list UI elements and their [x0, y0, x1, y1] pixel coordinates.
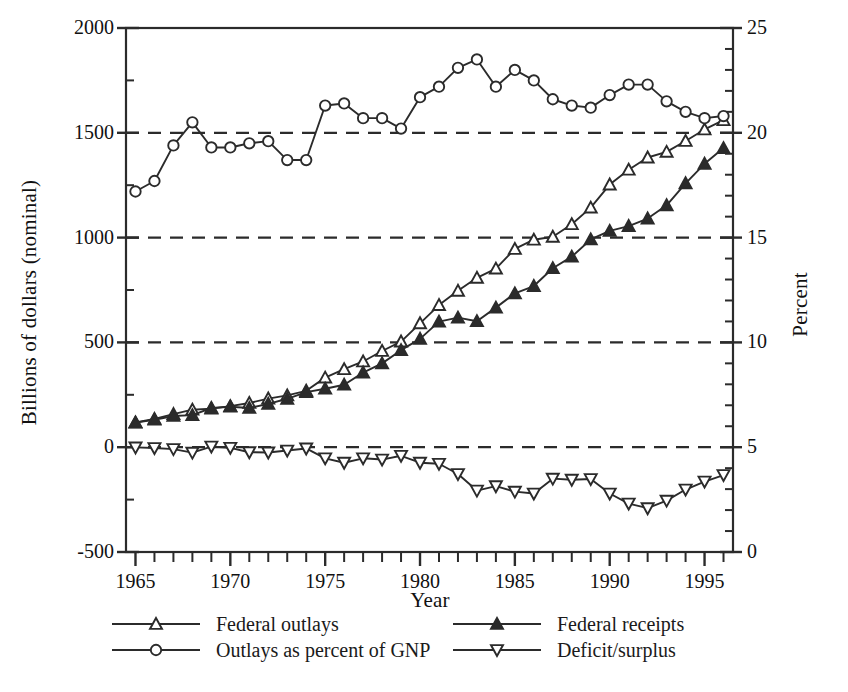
data-point-triangle [509, 243, 521, 254]
data-point-triangle [680, 135, 692, 146]
legend-item-deficit-surplus: Deficit/surplus [449, 640, 780, 660]
data-point-triangle-down [528, 489, 540, 500]
data-point-triangle-down [642, 503, 654, 514]
data-point-circle [680, 107, 690, 117]
data-point-triangle [452, 285, 464, 296]
data-point-circle [130, 186, 140, 196]
legend-item-federal-outlays: Federal outlays [108, 614, 439, 634]
data-point-triangle [623, 164, 635, 175]
data-point-circle [718, 111, 728, 121]
legend-swatch-circle-open [108, 640, 204, 660]
data-point-circle [453, 63, 463, 73]
data-point-triangle [357, 367, 369, 378]
legend-swatch-triangle-up-filled [449, 614, 545, 634]
y-tick-label-right-0: 0 [747, 540, 807, 563]
data-point-triangle [338, 379, 350, 390]
data-point-circle [699, 113, 709, 123]
y-axis-ticks-left [117, 28, 139, 552]
data-point-triangle-down [186, 448, 198, 459]
x-tick-label-1965: 1965 [95, 570, 175, 593]
data-point-triangle [490, 302, 502, 313]
chart-figure: Billions of dollars (nominal) Percent Ye… [0, 0, 848, 692]
y-axis-title-right: Percent [788, 185, 813, 425]
series-federal-outlays [129, 114, 729, 427]
x-tick-label-1985: 1985 [475, 570, 555, 593]
series-outlays-as-percent-of-gnp [130, 54, 728, 196]
data-point-circle [263, 136, 273, 146]
y-tick-label-left-2000: 2000 [30, 16, 114, 39]
chart-legend: Federal outlays Federal receipts Outlays… [108, 614, 780, 660]
x-tick-label-1975: 1975 [285, 570, 365, 593]
data-point-triangle [338, 363, 350, 374]
data-point-triangle-down [699, 477, 711, 488]
x-tick-label-1970: 1970 [190, 570, 270, 593]
series-deficit-surplus [129, 442, 729, 515]
data-point-circle [206, 142, 216, 152]
legend-label: Federal receipts [557, 614, 684, 634]
data-point-triangle [433, 299, 445, 310]
data-point-triangle-down [680, 485, 692, 496]
data-point-circle [548, 94, 558, 104]
data-point-circle [225, 142, 235, 152]
legend-label: Deficit/surplus [557, 640, 676, 660]
data-point-triangle [718, 142, 730, 153]
data-point-circle [434, 81, 444, 91]
data-point-triangle-down [471, 486, 483, 497]
series-federal-receipts [129, 142, 729, 427]
data-point-triangle [376, 357, 388, 368]
data-point-circle [472, 54, 482, 64]
data-point-triangle-down [661, 496, 673, 507]
data-point-triangle [642, 213, 654, 224]
y-tick-label-left--500: -500 [30, 540, 114, 563]
gridlines [126, 133, 733, 447]
data-point-triangle [509, 287, 521, 298]
data-point-circle [282, 155, 292, 165]
data-point-triangle [585, 233, 597, 244]
y-tick-label-right-5: 5 [747, 435, 807, 458]
data-point-circle [605, 90, 615, 100]
data-point-circle [510, 65, 520, 75]
data-point-circle [358, 113, 368, 123]
data-point-circle [586, 102, 596, 112]
y-tick-label-left-0: 0 [30, 435, 114, 458]
x-tick-label-1990: 1990 [570, 570, 650, 593]
data-point-circle [567, 100, 577, 110]
data-point-triangle [547, 262, 559, 273]
legend-label: Outlays as percent of GNP [216, 640, 430, 660]
data-point-triangle [661, 146, 673, 157]
data-point-circle [187, 117, 197, 127]
data-point-circle [529, 75, 539, 85]
data-point-circle [623, 79, 633, 89]
legend-item-federal-receipts: Federal receipts [449, 614, 780, 634]
data-point-triangle [452, 312, 464, 323]
y-tick-label-right-20: 20 [747, 121, 807, 144]
legend-label: Federal outlays [216, 614, 339, 634]
y-tick-label-left-1500: 1500 [30, 121, 114, 144]
legend-swatch-triangle-up-open [108, 614, 204, 634]
data-point-circle [491, 81, 501, 91]
data-point-triangle-down [604, 489, 616, 500]
data-point-triangle [547, 231, 559, 242]
y-tick-label-right-25: 25 [747, 16, 807, 39]
y-tick-label-left-1000: 1000 [30, 226, 114, 249]
data-point-circle [415, 92, 425, 102]
x-axis-ticks [135, 552, 723, 566]
data-point-circle [377, 113, 387, 123]
data-point-triangle [623, 220, 635, 231]
data-point-circle [301, 155, 311, 165]
data-point-circle [642, 79, 652, 89]
data-point-circle [339, 98, 349, 108]
data-point-circle [661, 96, 671, 106]
x-tick-label-1995: 1995 [665, 570, 745, 593]
data-point-triangle [699, 123, 711, 134]
x-tick-label-1980: 1980 [380, 570, 460, 593]
legend-item-outlays-percent-gnp: Outlays as percent of GNP [108, 640, 439, 660]
data-point-triangle [471, 272, 483, 283]
y-tick-label-left-500: 500 [30, 330, 114, 353]
data-point-circle [168, 140, 178, 150]
data-point-triangle [376, 345, 388, 356]
data-point-circle [149, 176, 159, 186]
y-tick-label-right-15: 15 [747, 226, 807, 249]
y-tick-label-right-10: 10 [747, 330, 807, 353]
legend-swatch-triangle-down-open [449, 640, 545, 660]
